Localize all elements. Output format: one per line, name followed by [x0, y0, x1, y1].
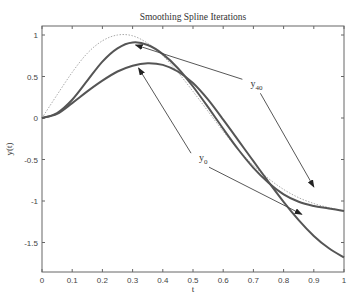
x-tick-label: 0.2 — [97, 276, 109, 285]
y-tick-label: -1 — [31, 197, 39, 206]
chart-title: Smoothing Spline Iterations — [140, 12, 247, 22]
y-tick-label: 0.5 — [27, 73, 39, 82]
annotation-arrow — [136, 45, 243, 79]
y-axis-ticks: 10.50-0.5-1-1.5 — [24, 31, 344, 248]
annotation-arrow — [139, 68, 191, 153]
plot-area — [42, 26, 344, 272]
x-tick-label: 0.7 — [248, 276, 260, 285]
x-tick-label: 0.9 — [308, 276, 320, 285]
annotation-label: y40 — [250, 78, 263, 92]
x-tick-label: 0.1 — [67, 276, 79, 285]
y-tick-label: 0 — [34, 114, 39, 123]
annotation-arrow — [209, 167, 302, 214]
chart-figure: Smoothing Spline Iterations 00.10.20.30.… — [0, 0, 363, 301]
x-tick-label: 0 — [40, 276, 45, 285]
line-chart: Smoothing Spline Iterations 00.10.20.30.… — [0, 0, 363, 301]
series-line — [42, 35, 344, 211]
annotation-label: y0 — [199, 152, 208, 166]
data-series — [42, 35, 344, 258]
y-tick-label: -0.5 — [24, 156, 38, 165]
x-tick-label: 0.4 — [157, 276, 169, 285]
x-tick-label: 0.6 — [218, 276, 230, 285]
y-tick-label: -1.5 — [24, 239, 38, 248]
y-axis-label: y(t) — [4, 143, 14, 156]
x-tick-label: 0.3 — [127, 276, 139, 285]
x-tick-label: 1 — [342, 276, 347, 285]
y-tick-label: 1 — [34, 31, 39, 40]
series-line — [42, 42, 344, 211]
annotation-arrow — [260, 93, 313, 187]
x-axis-label: t — [192, 284, 195, 294]
x-axis-ticks: 00.10.20.30.40.50.60.70.80.91 — [40, 26, 347, 285]
x-tick-label: 0.8 — [278, 276, 290, 285]
